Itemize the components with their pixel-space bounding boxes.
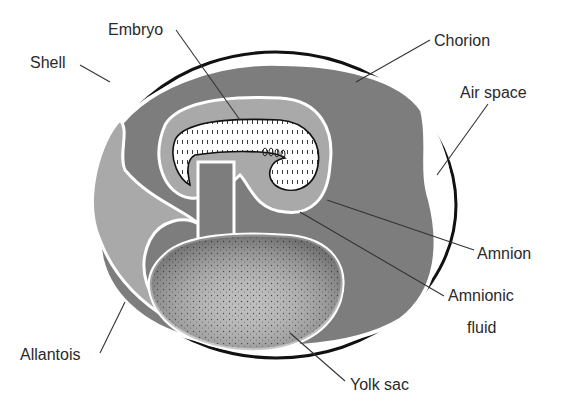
label-amnionic-fluid-line2: fluid bbox=[467, 319, 496, 336]
label-air-space: Air space bbox=[460, 84, 527, 101]
label-yolk-sac: Yolk sac bbox=[350, 376, 409, 393]
label-shell: Shell bbox=[30, 54, 66, 71]
leader-allantois bbox=[100, 302, 125, 353]
leader-air-space bbox=[437, 104, 488, 175]
amniotic-egg-diagram: Embryo Shell Chorion Air space Amnion Am… bbox=[0, 0, 567, 412]
label-amnion: Amnion bbox=[477, 245, 531, 262]
leader-shell bbox=[80, 65, 110, 82]
label-allantois: Allantois bbox=[20, 346, 80, 363]
label-amnionic-fluid-line1: Amnionic bbox=[448, 287, 514, 304]
label-chorion: Chorion bbox=[434, 32, 490, 49]
leader-chorion bbox=[356, 40, 430, 82]
label-embryo: Embryo bbox=[108, 21, 163, 38]
yolk-stalk bbox=[198, 162, 234, 242]
